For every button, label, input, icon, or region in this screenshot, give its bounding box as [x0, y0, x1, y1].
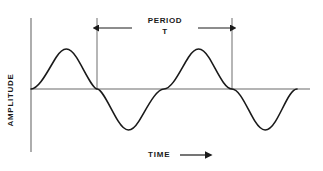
period-label: PERIOD [135, 17, 195, 25]
amplitude-axis-label: AMPLITUDE [7, 71, 15, 129]
sine-wave-figure: AMPLITUDE PERIOD T TIME [0, 0, 323, 171]
time-axis-label: TIME [148, 151, 170, 159]
period-symbol-label: T [135, 28, 195, 36]
waveform-canvas [0, 0, 323, 171]
